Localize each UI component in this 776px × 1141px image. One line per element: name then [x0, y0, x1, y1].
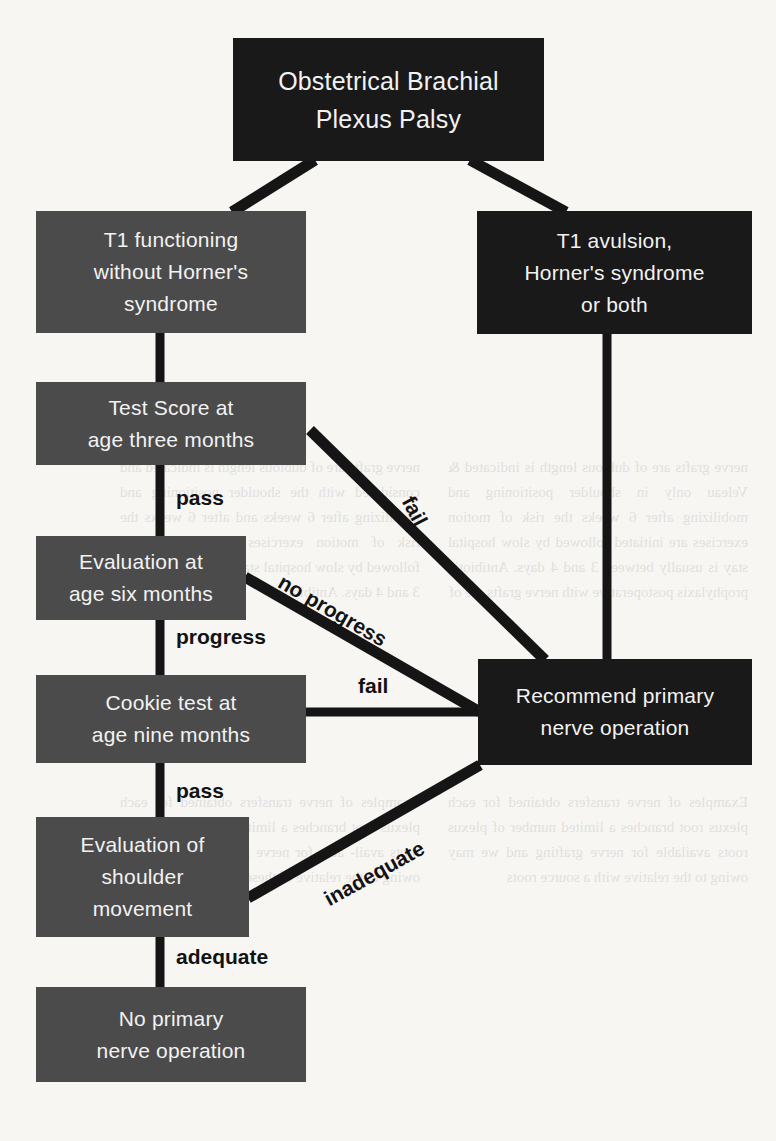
node-t1-avulsion: T1 avulsion, Horner's syndrome or both — [477, 211, 752, 334]
node-t1-functioning-line-1: T1 functioning — [94, 224, 248, 256]
edge-label-adequate: adequate — [176, 945, 268, 969]
node-evaluation-shoulder-movement: Evaluation of shoulder movement — [36, 817, 249, 937]
node-evaluation-six-line-2: age six months — [69, 578, 213, 610]
node-evaluation-shoulder-line-2: shoulder — [80, 861, 204, 893]
edge-label-pass-nine-months: pass — [176, 779, 224, 803]
node-root-line-2: Plexus Palsy — [278, 100, 499, 138]
node-recommend-line-2: nerve operation — [516, 712, 714, 744]
node-evaluation-six-months: Evaluation at age six months — [36, 536, 246, 620]
node-no-primary-line-1: No primary — [97, 1003, 246, 1035]
node-cookie-test-line-1: Cookie test at — [92, 687, 250, 719]
node-t1-avulsion-line-3: or both — [524, 289, 704, 321]
node-test-score-line-2: age three months — [88, 424, 255, 456]
node-no-primary-line-2: nerve operation — [97, 1035, 246, 1067]
node-recommend-primary-nerve-operation: Recommend primary nerve operation — [478, 659, 752, 765]
node-cookie-test-line-2: age nine months — [92, 719, 250, 751]
node-recommend-line-1: Recommend primary — [516, 680, 714, 712]
edge-root-to-t1-functioning — [232, 160, 315, 212]
node-test-score-three-months: Test Score at age three months — [36, 382, 306, 465]
node-cookie-test-nine-months: Cookie test at age nine months — [36, 675, 306, 763]
edge-label-fail-nine-months: fail — [358, 674, 388, 698]
node-evaluation-six-line-1: Evaluation at — [69, 546, 213, 578]
node-t1-functioning-line-3: syndrome — [94, 288, 248, 320]
node-root: Obstetrical Brachial Plexus Palsy — [233, 38, 544, 161]
node-test-score-line-1: Test Score at — [88, 392, 255, 424]
node-t1-avulsion-line-1: T1 avulsion, — [524, 225, 704, 257]
edge-label-progress-six-months: progress — [176, 625, 266, 649]
node-t1-avulsion-line-2: Horner's syndrome — [524, 257, 704, 289]
node-no-primary-nerve-operation: No primary nerve operation — [36, 987, 306, 1082]
node-t1-functioning: T1 functioning without Horner's syndrome — [36, 211, 306, 333]
edge-root-to-t1-avulsion — [470, 160, 566, 212]
node-evaluation-shoulder-line-3: movement — [80, 893, 204, 925]
edge-label-pass-three-months: pass — [176, 486, 224, 510]
node-root-line-1: Obstetrical Brachial — [278, 62, 499, 100]
flowchart-page: nerve grafts are of dubious length is in… — [0, 0, 776, 1141]
node-evaluation-shoulder-line-1: Evaluation of — [80, 829, 204, 861]
node-t1-functioning-line-2: without Horner's — [94, 256, 248, 288]
